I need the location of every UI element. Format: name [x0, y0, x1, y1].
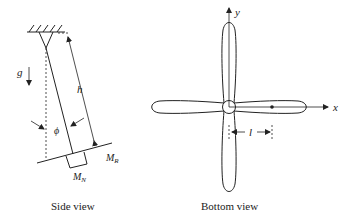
bottom-view: y x l Bottom view	[152, 6, 338, 212]
bottom-view-caption: Bottom view	[201, 200, 258, 212]
phi-arrow-right	[71, 118, 84, 126]
nacelle-mass-label: MN	[72, 171, 86, 184]
gravity-label: g	[17, 66, 23, 78]
side-view: g h ϕ MR MN Side view	[17, 25, 119, 212]
rotor-blade-down	[222, 111, 236, 192]
length-label: l	[249, 126, 252, 138]
blade-center-of-mass-dot	[270, 105, 274, 109]
side-view-caption: Side view	[51, 200, 95, 212]
ceiling-support	[27, 25, 65, 32]
rotor-mass-label: MR	[105, 152, 119, 165]
x-axis-label: x	[332, 101, 338, 113]
pivot-hinge	[39, 32, 53, 48]
height-label: h	[77, 83, 83, 95]
nacelle-mass-subscript: N	[80, 176, 86, 184]
y-axis-label: y	[234, 6, 240, 18]
rotor-blade-left	[152, 101, 224, 114]
rotor-mass-subscript: R	[113, 157, 119, 165]
rotor-disk-line	[37, 143, 112, 163]
angle-phi-label: ϕ	[54, 125, 59, 136]
diagram-canvas: g h ϕ MR MN Side view y x l Bottom view	[0, 0, 354, 223]
phi-arrow-left	[31, 121, 44, 129]
pendulum-rod	[46, 48, 73, 154]
